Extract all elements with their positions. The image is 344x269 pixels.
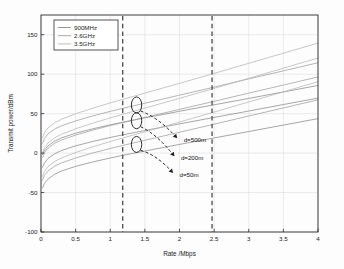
ytick-label--50: -50 <box>29 189 39 196</box>
xtick-label-3.5: 3.5 <box>279 235 288 242</box>
xtick-label-2: 2 <box>178 235 182 242</box>
legend-label-3.5GHz: 3.5GHz <box>74 40 95 47</box>
legend-label-2.6GHz: 2.6GHz <box>74 32 95 39</box>
xtick-label-4: 4 <box>316 235 320 242</box>
xtick-label-1: 1 <box>109 235 113 242</box>
annotation-label-d-200m: d=200m <box>181 154 204 161</box>
ytick-label-100: 100 <box>27 70 38 77</box>
xtick-label-0.5: 0.5 <box>71 235 80 242</box>
legend: 900MHz2.6GHz3.5GHz <box>54 20 118 50</box>
xtick-label-0: 0 <box>39 235 43 242</box>
annotation-label-d-50m: d=50m <box>180 171 199 178</box>
ytick-label-50: 50 <box>31 110 38 117</box>
ytick-label-0: 0 <box>34 149 38 156</box>
transmit-power-vs-rate-chart: d=500md=200md=50m 00.511.522.533.5415010… <box>0 0 344 269</box>
annotation-label-d-500m: d=500m <box>184 136 207 143</box>
legend-label-900MHz: 900MHz <box>74 24 97 31</box>
chart-background <box>0 0 344 269</box>
chart-figure: d=500md=200md=50m 00.511.522.533.5415010… <box>0 0 344 269</box>
ytick-label--100: -100 <box>25 228 38 235</box>
y-axis-label: Transmit power/dBm <box>7 94 15 153</box>
xtick-label-2.5: 2.5 <box>210 235 219 242</box>
ytick-label-150: 150 <box>27 31 38 38</box>
xtick-label-3: 3 <box>247 235 251 242</box>
xtick-label-1.5: 1.5 <box>141 235 150 242</box>
x-axis-label: Rate /Mbps <box>163 250 196 258</box>
